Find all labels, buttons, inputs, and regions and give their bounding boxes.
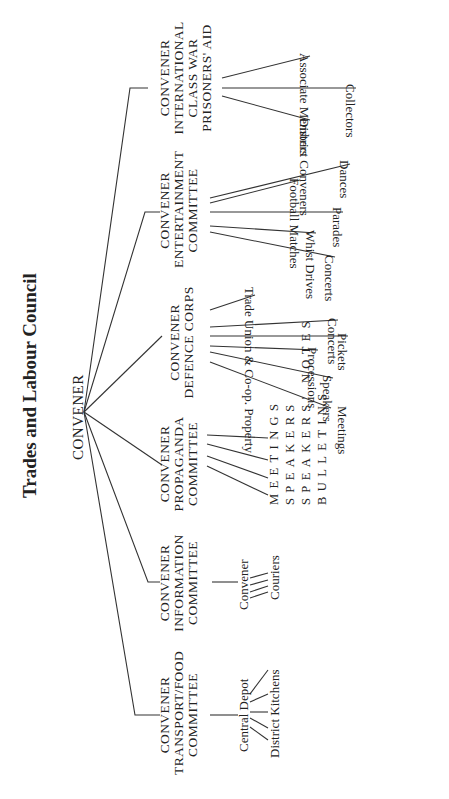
committee-line: TRANSPORT/FOOD	[172, 655, 186, 775]
item-couriers: Couriers	[268, 555, 281, 600]
committee-line: PROPAGANDA	[172, 414, 186, 514]
committee-line: COMMITTEE	[186, 153, 200, 268]
committee-line: INFORMATION	[172, 528, 186, 638]
item-speakers: SPEAKERS	[282, 316, 298, 505]
item-defence-meetings: Meetings	[336, 406, 349, 454]
committee-propaganda: CONVENER PROPAGANDA COMMITTEE	[158, 414, 200, 514]
committee-defence-corps: CONVENER DEFENCE CORPS	[168, 285, 196, 400]
committee-line: CONVENER	[158, 153, 172, 268]
committee-transport-food: CONVENER TRANSPORT/FOOD COMMITTEE	[158, 655, 200, 775]
item-ent-whist-drives: Whist Drives	[304, 230, 317, 299]
item-convener: Convener	[237, 559, 250, 610]
item-defence-processions: Processions	[306, 347, 319, 408]
item-defence-property: Trade Union & Co-op. Property	[243, 287, 256, 453]
committee-line: PRISONERS' AID	[200, 18, 214, 138]
item-district-kitchens: District Kitchens	[268, 670, 281, 758]
item-associate-members: Associate Members	[298, 53, 311, 156]
item-defence-concerts: Concerts	[326, 318, 339, 364]
committee-line: CONVENER	[158, 528, 172, 638]
committee-line: DEFENCE CORPS	[182, 285, 196, 400]
diagram-title: Trades and Labour Council	[20, 273, 39, 498]
committee-line: CLASS WAR	[186, 18, 200, 138]
item-defence-speakers: Speakers	[321, 375, 334, 422]
committee-line: COMMITTEE	[186, 528, 200, 638]
committee-information: CONVENER INFORMATION COMMITTEE	[158, 528, 200, 638]
committee-entertainment: CONVENER ENTERTAINMENT COMMITTEE	[158, 153, 200, 268]
item-ent-parades: Parades	[331, 207, 344, 247]
committee-line: COMMITTEE	[186, 414, 200, 514]
item-central-depot: Central Depot	[237, 679, 250, 752]
item-collectors: Collectors	[344, 84, 357, 137]
committee-line: CONVENER	[158, 414, 172, 514]
committee-international-class-war-prisoners-aid: CONVENER INTERNATIONAL CLASS WAR PRISONE…	[158, 18, 214, 138]
committee-line: COMMITTEE	[186, 655, 200, 775]
committee-line: CONVENER	[158, 655, 172, 775]
committee-line: ENTERTAINMENT	[172, 153, 186, 268]
committee-line: CONVENER	[158, 18, 172, 138]
item-meetings: MEETINGS	[266, 316, 282, 505]
committee-line: INTERNATIONAL	[172, 18, 186, 138]
item-ent-dances: Dances	[338, 160, 351, 198]
connector-lines	[0, 0, 449, 799]
committee-line: CONVENER	[168, 285, 182, 400]
root-convener-label: CONVENER	[71, 374, 86, 460]
item-speakers-notes: SPEAKERS' NOTES	[298, 316, 314, 505]
item-ent-concerts: Concerts	[323, 255, 336, 301]
